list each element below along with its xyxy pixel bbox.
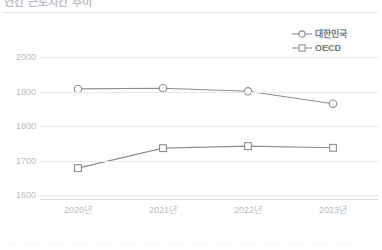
x-axis-line — [40, 199, 378, 200]
x-tick-label: 2021년 — [149, 203, 177, 216]
x-tick-label: 2020년 — [64, 203, 92, 216]
x-tick-label: 2023년 — [319, 203, 347, 216]
gridline — [40, 126, 378, 127]
chart-title: 연간 근로시간 추이 — [4, 0, 92, 9]
gridline — [40, 57, 378, 58]
data-point-marker[interactable] — [75, 165, 82, 172]
gridline — [40, 161, 378, 162]
x-tick-label: 2022년 — [234, 203, 262, 216]
plot-area — [40, 40, 378, 195]
data-point-marker[interactable] — [245, 143, 252, 150]
gridline — [40, 92, 378, 93]
y-tick-label: 1900 — [2, 87, 36, 97]
data-point-marker[interactable] — [329, 100, 336, 107]
y-tick-label: 1800 — [2, 121, 36, 131]
legend-label-oecd: OECD — [315, 43, 341, 53]
data-point-marker[interactable] — [160, 145, 167, 152]
gridline — [40, 195, 378, 196]
circle-marker-icon — [292, 28, 312, 40]
bottom-divider — [6, 243, 358, 244]
data-point-marker[interactable] — [330, 144, 337, 151]
legend-item-korea[interactable]: 대한민국 — [292, 27, 380, 40]
series-line — [78, 88, 333, 104]
square-marker-icon — [292, 42, 312, 54]
chart-legend: 대한민국 OECD — [292, 27, 380, 55]
legend-label-korea: 대한민국 — [315, 27, 347, 40]
series-layer — [40, 40, 378, 195]
legend-item-oecd[interactable]: OECD — [292, 41, 380, 54]
y-tick-label: 2000 — [2, 52, 36, 62]
chart-card: 연간 근로시간 추이 16001700180019002000 2020년202… — [0, 0, 382, 250]
title-divider — [4, 12, 378, 13]
x-axis: 2020년2021년2022년2023년 — [40, 203, 378, 221]
series-line — [78, 146, 333, 168]
y-tick-label: 1600 — [2, 190, 36, 200]
y-tick-label: 1700 — [2, 156, 36, 166]
y-axis: 16001700180019002000 — [0, 40, 36, 195]
